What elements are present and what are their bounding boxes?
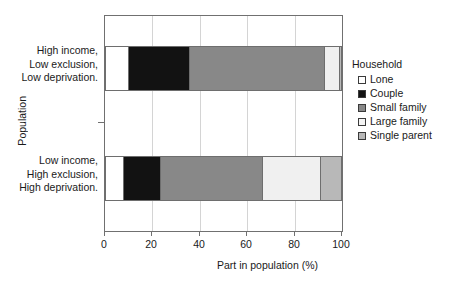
legend: Household Lone Couple Small family Large…: [352, 58, 432, 143]
segment-couple[interactable]: [124, 157, 161, 200]
legend-label-large-family: Large family: [370, 115, 427, 128]
segment-single-parent[interactable]: [321, 157, 342, 200]
legend-item-large-family[interactable]: Large family: [358, 115, 432, 128]
legend-item-small-family[interactable]: Small family: [358, 101, 432, 114]
segment-lone[interactable]: [105, 47, 129, 90]
x-tick-40: [199, 231, 200, 236]
legend-swatch-small-family: [358, 104, 366, 112]
x-tick-label-60: 60: [226, 238, 266, 250]
y-axis-category-label-low-income: Low income, High exclusion, High depriva…: [19, 154, 98, 195]
legend-label-small-family: Small family: [370, 101, 427, 114]
legend-swatch-large-family: [358, 118, 366, 126]
x-axis-title: Part in population (%): [0, 259, 451, 271]
segment-lone[interactable]: [105, 157, 124, 200]
segment-single-parent[interactable]: [340, 47, 342, 90]
bar-low-income[interactable]: [105, 156, 342, 201]
legend-swatch-lone: [358, 76, 366, 84]
x-tick-100: [341, 231, 342, 236]
x-tick-label-20: 20: [131, 238, 171, 250]
y-axis-category-label-high-income: High income, Low exclusion, Low deprivat…: [22, 44, 98, 85]
x-axis-line: [104, 231, 342, 232]
segment-large-family[interactable]: [263, 157, 321, 200]
plot-area: [104, 15, 343, 232]
legend-label-single-parent: Single parent: [370, 129, 432, 142]
x-tick-label-40: 40: [179, 238, 219, 250]
x-tick-60: [246, 231, 247, 236]
segment-small-family[interactable]: [190, 47, 325, 90]
legend-item-lone[interactable]: Lone: [358, 73, 432, 86]
legend-label-lone: Lone: [370, 73, 393, 86]
legend-label-couple: Couple: [370, 87, 403, 100]
y-axis-title: Population: [16, 96, 32, 146]
segment-large-family[interactable]: [325, 47, 339, 90]
x-tick-0: [104, 231, 105, 236]
x-tick-label-80: 80: [274, 238, 314, 250]
x-tick-20: [151, 231, 152, 236]
y-axis-middle-tick: [98, 122, 104, 123]
legend-swatch-couple: [358, 90, 366, 98]
segment-couple[interactable]: [129, 47, 191, 90]
x-tick-label-100: 100: [321, 238, 361, 250]
x-tick-80: [294, 231, 295, 236]
legend-item-couple[interactable]: Couple: [358, 87, 432, 100]
legend-swatch-single-parent: [358, 132, 366, 140]
bar-high-income[interactable]: [105, 46, 342, 91]
segment-small-family[interactable]: [161, 157, 263, 200]
legend-item-single-parent[interactable]: Single parent: [358, 129, 432, 142]
legend-title: Household: [352, 58, 432, 70]
x-tick-label-0: 0: [84, 238, 124, 250]
